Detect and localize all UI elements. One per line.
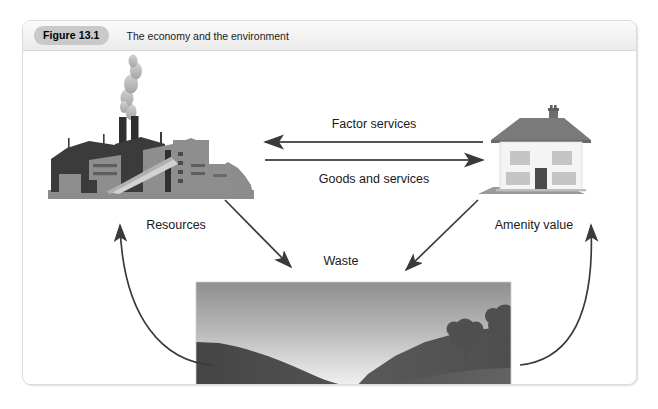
house-roof [491, 118, 591, 140]
label-factor-services: Factor services [332, 117, 417, 131]
house-door [535, 168, 547, 190]
factory-window [178, 152, 183, 156]
factory-window-strip [93, 164, 117, 167]
house-illustration [478, 105, 591, 194]
factory-side-block [209, 164, 231, 192]
figure-number-badge: Figure 13.1 [34, 26, 109, 46]
figure-title: The economy and the environment [127, 30, 289, 42]
label-goods-and-services: Goods and services [319, 172, 429, 186]
figure-card: Figure 13.1 The economy and the environm… [22, 20, 637, 385]
factory-illustration [48, 55, 254, 200]
house-chimney-cap [548, 108, 559, 111]
factory-window [178, 161, 183, 165]
label-resources: Resources [146, 218, 206, 232]
factory-tower-cap [173, 140, 209, 147]
factory-window-strip [191, 164, 205, 167]
house-window-lower-right [552, 172, 576, 185]
factory-window-strip [191, 172, 205, 175]
house-window-upper-left [510, 151, 530, 165]
factory-annex-dark [81, 180, 97, 193]
diagram-area: Factor services Goods and services Resou… [23, 52, 636, 384]
factory-window [178, 170, 183, 174]
factory-window-strip [93, 172, 117, 175]
label-amenity-value: Amenity value [495, 218, 574, 232]
house-chimney-pot [550, 105, 553, 109]
waste-from-house-arrow [406, 200, 478, 270]
label-waste: Waste [324, 254, 359, 268]
amenity-value-arrow [520, 225, 591, 365]
figure-header: Figure 13.1 The economy and the environm… [23, 21, 636, 51]
house-window-lower-left [506, 172, 530, 185]
house-window-upper-right [552, 151, 572, 165]
factory-annex [59, 174, 81, 193]
factory-pipe [165, 150, 171, 192]
landscape-illustration [196, 282, 525, 385]
smoke-icon [120, 55, 142, 121]
house-base [496, 189, 586, 191]
economy-environment-diagram: Factor services Goods and services Resou… [23, 52, 636, 385]
waste-from-factory-arrow [225, 200, 291, 267]
factory-window [178, 179, 183, 183]
house-chimney-pot [554, 105, 557, 109]
factory-window-strip [213, 174, 227, 177]
